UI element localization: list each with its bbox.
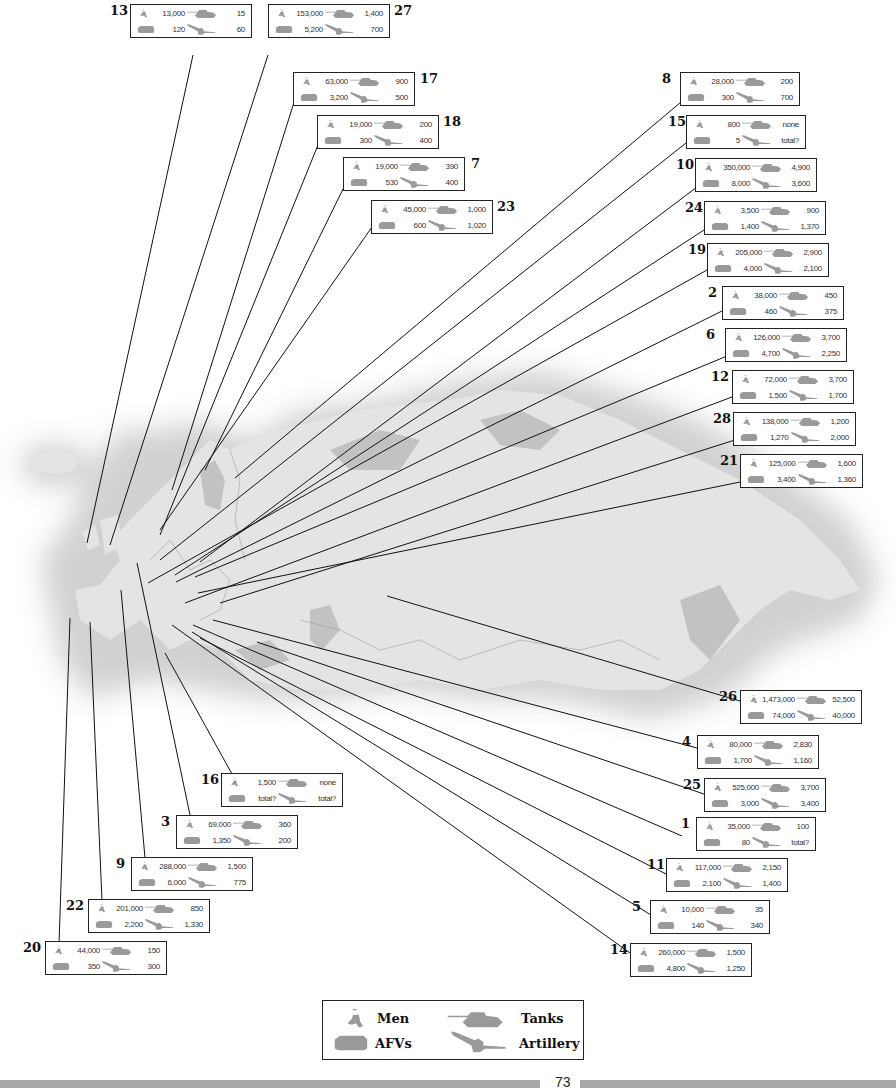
country-stats-box: 3,5009001,4001,370 [704, 201, 826, 235]
tanks-value: 150 [148, 946, 160, 955]
artillery-icon [752, 837, 782, 848]
artillery-icon [791, 432, 821, 443]
artillery-value: 2,100 [803, 264, 822, 273]
tank-icon [145, 903, 175, 914]
artillery-icon [233, 835, 263, 846]
artillery-icon [798, 474, 828, 485]
afv-icon [687, 93, 705, 102]
afv-icon [300, 93, 318, 102]
tank-icon [791, 416, 821, 427]
artillery-icon [350, 92, 380, 103]
men-value: 288,000 [159, 862, 186, 871]
tanks-value: 1,400 [364, 9, 383, 18]
afv-icon [228, 794, 246, 803]
country-number: 15 [668, 114, 686, 129]
country-number: 28 [713, 411, 731, 426]
afvs-value: 6,000 [167, 878, 186, 887]
men-value: 350,000 [723, 163, 750, 172]
afv-icon [693, 136, 711, 145]
tank-icon [797, 694, 827, 705]
afvs-value: 1,700 [733, 756, 752, 765]
artillery-icon [325, 24, 355, 35]
country-stats-box: 205,0002,9004,0002,100 [707, 243, 829, 277]
men-value: 153,000 [296, 9, 323, 18]
country-stats-box: 126,0003,7004,7002,250 [725, 328, 847, 362]
men-icon [300, 77, 314, 86]
afv-icon [637, 964, 655, 973]
artillery-icon [761, 221, 791, 232]
legend-artillery-label: Artillery [519, 1036, 579, 1051]
artillery-value: 500 [396, 93, 408, 102]
men-icon [740, 417, 754, 426]
men-value: 80,000 [729, 740, 752, 749]
men-value: 45,000 [403, 205, 426, 214]
country-stats-box: 45,0001,0006001,020 [371, 200, 493, 234]
artillery-value: 3,400 [800, 799, 819, 808]
country-stats-box: 44,000150350300 [45, 941, 167, 975]
tanks-value: 3,700 [800, 783, 819, 792]
men-icon [324, 120, 338, 129]
artillery-icon [187, 24, 217, 35]
men-value: 117,000 [695, 863, 721, 872]
artillery-value: 700 [371, 25, 383, 34]
men-icon [729, 291, 743, 300]
artillery-value: 1,250 [726, 964, 745, 973]
afvs-value: 3,400 [777, 475, 796, 484]
men-icon [703, 822, 717, 831]
afvs-value: 300 [360, 136, 372, 145]
country-stats-box: 350,0004,9008,0003,600 [695, 158, 817, 192]
legend-afvs-label: AFVs [375, 1036, 412, 1051]
tanks-value: 35 [755, 905, 763, 914]
artillery-value: total? [318, 794, 336, 803]
artillery-icon [706, 920, 736, 931]
afv-icon [275, 25, 293, 34]
afvs-value: 1,270 [770, 433, 789, 442]
tank-icon [752, 821, 782, 832]
country-number: 11 [647, 857, 665, 872]
afv-icon [702, 179, 720, 188]
tank-icon [706, 904, 736, 915]
tank-icon [798, 458, 828, 469]
country-stats-box: 19,000390530400 [343, 157, 465, 191]
artillery-icon [428, 220, 458, 231]
men-icon [345, 1009, 367, 1029]
country-stats-box: 125,0001,6003,4001,360 [740, 454, 863, 488]
men-value: 69,000 [208, 820, 231, 829]
tanks-value: 1,200 [830, 417, 849, 426]
country-stats-box: 525,0003,7003,0003,400 [704, 778, 826, 812]
afv-icon [657, 921, 675, 930]
country-stats-box: 260,0001,5004,8001,250 [630, 943, 752, 977]
tanks-value: 1,500 [726, 948, 745, 957]
afvs-value: 4,000 [743, 264, 762, 273]
men-value: 205,000 [735, 248, 762, 257]
men-value: 126,000 [753, 333, 780, 342]
afv-icon [711, 222, 729, 231]
men-value: 1,473,000 [762, 695, 795, 704]
men-value: 1,500 [257, 778, 276, 787]
artillery-value: 1,330 [184, 920, 203, 929]
legend-tanks-label: Tanks [521, 1011, 564, 1026]
artillery-icon [451, 1031, 509, 1053]
afvs-value: 2,200 [124, 920, 143, 929]
afv-icon [740, 433, 758, 442]
tank-icon [400, 161, 430, 172]
artillery-value: 1,160 [793, 756, 812, 765]
country-number: 14 [610, 942, 628, 957]
artillery-value: 200 [279, 836, 291, 845]
artillery-value: 775 [234, 878, 246, 887]
country-number: 20 [23, 940, 41, 955]
country-stats-box: 201,0008502,2001,330 [88, 899, 210, 933]
afv-icon [704, 756, 722, 765]
afvs-value: 5 [736, 136, 740, 145]
afv-icon [183, 836, 201, 845]
country-number: 17 [420, 71, 438, 86]
artillery-icon [789, 390, 819, 401]
afv-icon [747, 711, 765, 720]
afvs-value: 4,800 [666, 964, 685, 973]
artillery-icon [761, 798, 791, 809]
men-icon [350, 162, 364, 171]
tanks-value: 52,500 [832, 695, 855, 704]
country-number: 13 [110, 3, 128, 18]
men-value: 19,000 [349, 120, 372, 129]
men-icon [228, 778, 242, 787]
